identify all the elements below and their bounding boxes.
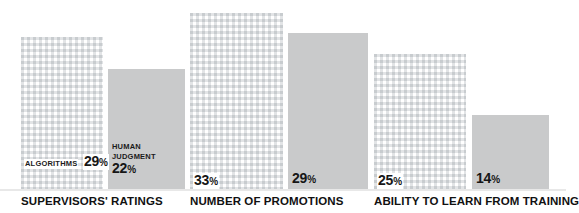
category-label-number-of-promotions: NUMBER OF PROMOTIONS: [190, 194, 343, 208]
annot-supervisors-ratings-human-judgment: HUMAN JUDGMENT 22%: [112, 142, 156, 177]
bar-number-of-promotions-human-judgment: [288, 33, 368, 189]
value-number-of-promotions-algorithms: 33%: [193, 173, 219, 189]
bar-ability-to-learn-from-training-algorithms: [374, 54, 466, 189]
value-ability-to-learn-from-training-algorithms: 25%: [377, 173, 403, 189]
annot-supervisors-ratings-algorithms: ALGORITHMS 29%: [24, 152, 109, 170]
value-supervisors-ratings-algorithms: 29%: [83, 154, 109, 170]
plot-area: ALGORITHMS 29% HUMAN JUDGMENT 22% 33% 29…: [0, 0, 566, 189]
category-label-ability-to-learn-from-training: ABILITY TO LEARN FROM TRAINING: [374, 194, 579, 208]
bar-number-of-promotions-algorithms: [190, 13, 283, 189]
baseline-rule: [0, 189, 566, 191]
annot-ability-to-learn-from-training-algorithms: 25%: [377, 171, 403, 189]
value-ability-to-learn-from-training-human-judgment: 14%: [476, 171, 500, 187]
annot-ability-to-learn-from-training-human-judgment: 14%: [476, 171, 500, 187]
value-number-of-promotions-human-judgment: 29%: [292, 171, 316, 187]
value-supervisors-ratings-human-judgment: 22%: [112, 161, 156, 177]
annot-number-of-promotions-human-judgment: 29%: [292, 171, 316, 187]
annot-number-of-promotions-algorithms: 33%: [193, 171, 219, 189]
category-label-supervisors-ratings: SUPERVISORS' RATINGS: [21, 194, 163, 208]
category-axis: SUPERVISORS' RATINGS NUMBER OF PROMOTION…: [0, 194, 566, 213]
legend-label-human-judgment: HUMAN JUDGMENT: [112, 142, 156, 161]
legend-label-algorithms: ALGORITHMS: [24, 159, 78, 169]
